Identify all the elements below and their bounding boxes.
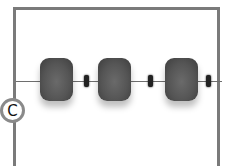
large-bead: [165, 58, 198, 101]
small-bead: [148, 75, 153, 87]
small-bead: [84, 75, 89, 87]
panel-label: C: [0, 98, 25, 123]
panel-label-text: C: [7, 102, 17, 120]
small-bead: [206, 75, 211, 87]
large-bead: [40, 58, 73, 101]
large-bead: [98, 58, 131, 101]
